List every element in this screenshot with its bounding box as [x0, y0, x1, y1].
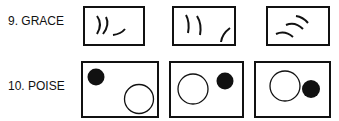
item-label-grace: 9. GRACE — [8, 14, 64, 28]
circles-figure-icon — [256, 63, 329, 116]
curves-figure-icon — [85, 8, 143, 44]
poise-panel-1 — [81, 61, 159, 118]
grace-panel-2 — [172, 6, 236, 46]
item-label-poise: 10. POISE — [8, 79, 65, 93]
circles-figure-icon — [83, 63, 157, 116]
poise-panel-2 — [169, 61, 244, 118]
grace-panel-3 — [266, 6, 330, 46]
grace-panel-1 — [83, 6, 145, 46]
arcs-figure-icon — [268, 8, 328, 44]
poise-panel-3 — [254, 61, 331, 118]
curves-figure-icon — [174, 8, 234, 44]
circles-figure-icon — [171, 63, 242, 116]
